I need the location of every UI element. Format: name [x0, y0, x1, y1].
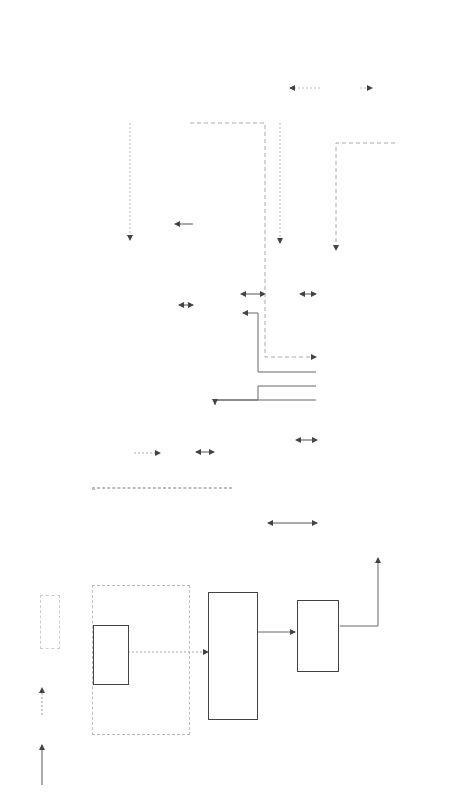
- divider-40: [92, 488, 94, 490]
- spacer-2: [92, 388, 277, 488]
- box-service-comm[interactable]: [297, 600, 339, 672]
- divider: [92, 487, 232, 489]
- box-instructor-package[interactable]: [208, 592, 258, 720]
- legend-annotation-swatch: [40, 595, 60, 649]
- box-wines-tool[interactable]: [93, 625, 129, 685]
